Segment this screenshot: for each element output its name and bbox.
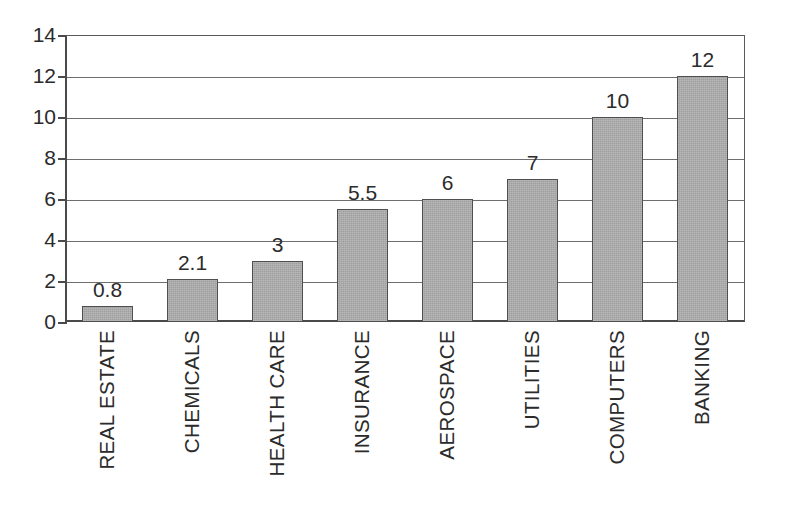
- x-axis-category-label: AEROSPACE: [437, 330, 458, 460]
- bar: [252, 261, 303, 323]
- bar-group: 7: [507, 35, 558, 322]
- x-axis-category: AEROSPACE: [422, 330, 473, 505]
- x-axis-category-label: CHEMICALS: [182, 330, 203, 453]
- x-axis-category-label: REAL ESTATE: [97, 330, 118, 470]
- x-axis-category: INSURANCE: [337, 330, 388, 505]
- x-axis-category-label: BANKING: [692, 330, 713, 425]
- bar-chart: 02468101214 0.82.135.5671012 REAL ESTATE…: [0, 0, 790, 511]
- bar-group: 10: [592, 35, 643, 322]
- bar-group: 5.5: [337, 35, 388, 322]
- x-axis-category: CHEMICALS: [167, 330, 218, 505]
- bar-value-label: 5.5: [348, 182, 377, 203]
- bar: [507, 179, 558, 323]
- x-axis-category-label: COMPUTERS: [607, 330, 628, 465]
- bar-value-label: 2.1: [178, 252, 207, 273]
- x-axis-category-label: HEALTH CARE: [267, 330, 288, 476]
- bar-value-label: 0.8: [93, 279, 122, 300]
- x-axis-category-label: UTILITIES: [522, 330, 543, 429]
- bar: [167, 279, 218, 322]
- bar: [82, 306, 133, 322]
- bar-group: 3: [252, 35, 303, 322]
- bar-value-label: 10: [606, 90, 629, 111]
- bar: [337, 209, 388, 322]
- bar-value-label: 7: [527, 152, 539, 173]
- bar-group: 12: [677, 35, 728, 322]
- bars-layer: 0.82.135.5671012: [65, 35, 745, 322]
- x-axis-category: COMPUTERS: [592, 330, 643, 505]
- y-axis-tick-marks: [0, 35, 70, 322]
- bar-value-label: 6: [442, 172, 454, 193]
- x-axis-category: BANKING: [677, 330, 728, 505]
- x-axis-category: HEALTH CARE: [252, 330, 303, 505]
- bar-group: 6: [422, 35, 473, 322]
- bar: [422, 199, 473, 322]
- bar: [592, 117, 643, 322]
- bar-group: 2.1: [167, 35, 218, 322]
- x-axis-category-labels: REAL ESTATECHEMICALSHEALTH CAREINSURANCE…: [65, 330, 745, 505]
- bar-group: 0.8: [82, 35, 133, 322]
- x-axis-category-label: INSURANCE: [352, 330, 373, 454]
- x-axis-category: UTILITIES: [507, 330, 558, 505]
- bar-value-label: 3: [272, 234, 284, 255]
- bar: [677, 76, 728, 322]
- x-axis-category: REAL ESTATE: [82, 330, 133, 505]
- bar-value-label: 12: [691, 49, 714, 70]
- y-axis-tick-mark: [58, 322, 67, 324]
